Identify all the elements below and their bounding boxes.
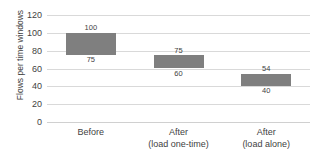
bar-group-before: 100 75 [47, 15, 135, 122]
x-label-after-load-one-time: After (load one-time) [135, 126, 223, 150]
x-label-line1: After [169, 127, 188, 137]
bar-high-value-label: 100 [85, 24, 98, 32]
bar-rect[interactable] [154, 55, 204, 68]
bar-group-after-load-alone: 54 40 [222, 15, 310, 122]
y-tick-label: 40 [14, 82, 42, 91]
y-tick-label: 80 [14, 47, 42, 56]
bar-high-value-label: 75 [174, 47, 182, 55]
y-tick-label: 0 [14, 118, 42, 127]
bar-low-value-label: 75 [87, 56, 95, 64]
x-label-line2: (load alone) [222, 138, 310, 150]
x-label-line1: Before [78, 127, 105, 137]
y-axis-tick-labels: 120 100 80 60 40 20 0 [14, 0, 42, 163]
bars-layer: 100 75 75 60 54 40 [47, 15, 310, 122]
y-tick-label: 60 [14, 65, 42, 74]
bar-high-value-label: 54 [262, 65, 270, 73]
x-label-before: Before [47, 126, 135, 138]
y-tick-label: 20 [14, 100, 42, 109]
bar-rect[interactable] [66, 33, 116, 55]
y-tick-label: 120 [14, 11, 42, 20]
bar-group-after-load-one-time: 75 60 [135, 15, 223, 122]
bar-chart: Flows per time windows 120 100 80 60 40 … [0, 0, 316, 163]
bar-low-value-label: 40 [262, 87, 270, 95]
x-label-line2: (load one-time) [135, 138, 223, 150]
bar-low-value-label: 60 [174, 70, 182, 78]
x-label-line1: After [257, 127, 276, 137]
x-axis-category-labels: Before After (load one-time) After (load… [47, 126, 310, 161]
x-label-after-load-alone: After (load alone) [222, 126, 310, 150]
bar-rect[interactable] [241, 74, 291, 87]
plot-area: 100 75 75 60 54 40 [47, 15, 310, 122]
gridline-0 [47, 122, 310, 123]
y-tick-label: 100 [14, 29, 42, 38]
